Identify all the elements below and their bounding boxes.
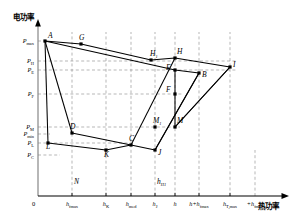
x-axis-arrow [282, 193, 290, 199]
label-F: F [165, 85, 171, 94]
y-tick-Pmin-sub: min [27, 134, 35, 139]
y-tick-PM-sub: M [30, 127, 34, 132]
axes [35, 19, 289, 199]
lower-upper-link-line [72, 133, 131, 145]
x-tick-h_plus_hfmax: h+hfmax [189, 200, 209, 209]
upper-boundary-line [45, 41, 230, 67]
label-H1-sub: 1 [155, 54, 157, 59]
y-tick-PL: PL [27, 139, 35, 148]
x-tick-labels: 0hfmaxhKhmedhJhh+hfmaxhT,max+hfmax [32, 193, 264, 210]
marker-F [173, 92, 176, 95]
marker-M1 [153, 125, 156, 128]
x-tick-hTmax: hT,max [223, 200, 238, 210]
chp-feasible-region-chart: AGH1HEBIFM1MDCLKJNhH1 0hfmaxhKhmedhJhh+h… [0, 0, 308, 224]
y-tick-PC-sub: C [31, 155, 34, 160]
x-tick-h_med: hmed [126, 200, 137, 209]
y-tick-PF: PF [27, 90, 35, 99]
label-N: N [73, 177, 80, 186]
marker-H1 [149, 58, 152, 61]
x-tick-h_plus_hfmax-sub: fmax [200, 204, 210, 209]
edge-A-D [45, 41, 72, 133]
x-tick-h_K: hK [103, 200, 110, 209]
x-tick-h_J: hJ [153, 200, 158, 209]
y-tick-Pmax-sub: max [26, 41, 34, 46]
x-tick-h_K-sub: K [106, 204, 110, 209]
y-tick-PH-sub: H [31, 61, 35, 66]
y-tick-PE-sub: E [31, 70, 34, 75]
figure-canvas: AGH1HEBIFM1MDCLKJNhH1 0hfmaxhKhmedhJhh+h… [0, 0, 308, 224]
marker-D [70, 131, 73, 134]
label-K: K [103, 150, 110, 159]
label-D: D [69, 122, 76, 131]
y-tick-Pmax: Pmax [22, 37, 35, 46]
marker-E [173, 68, 176, 71]
vertex-labels: AGH1HEBIFM1MDCLKJNhH1 [45, 31, 236, 187]
label-B: B [202, 70, 207, 79]
marker-H [173, 56, 176, 59]
label-A: A [47, 31, 53, 40]
y-tick-PC: PC [26, 151, 34, 160]
lower-boundary-line [48, 143, 155, 150]
y-tick-PF-sub: F [32, 94, 35, 99]
x-tick-origin: 0 [32, 200, 35, 207]
label-H1: H1 [149, 49, 158, 59]
marker-B [197, 71, 200, 74]
x-tick-h_med-sub: med [129, 204, 137, 209]
y-tick-labels: PmaxPHPEPFPMPminPLPC [22, 37, 35, 160]
label-J: J [158, 148, 162, 157]
x-tick-h_fmax-sub: fmax [69, 204, 79, 209]
label-I: I [232, 60, 236, 69]
x-tick-h: h [173, 200, 176, 207]
y-tick-PH: PH [26, 57, 35, 66]
marker-M [173, 125, 176, 128]
y-axis-arrow [35, 19, 41, 27]
marker-J [153, 148, 156, 151]
marker-C [129, 143, 132, 146]
y-tick-PL-sub: L [31, 143, 34, 148]
x-tick-h_J-sub: J [156, 204, 158, 209]
label-hH1: hH1 [157, 177, 166, 187]
label-M1: M1 [152, 116, 161, 126]
marker-I [228, 65, 231, 68]
x-axis-title: 热功率 [258, 201, 280, 211]
label-E: E [165, 63, 171, 72]
marker-A [43, 39, 46, 42]
label-G: G [79, 33, 85, 42]
label-hH1-sub: H1 [160, 182, 166, 187]
x-tick-h_fmax: hfmax [66, 200, 79, 209]
label-M: M [176, 116, 184, 125]
edge-A-L [45, 41, 48, 143]
y-axis-title: 电功率 [13, 12, 35, 22]
y-tick-PE: PE [27, 66, 35, 75]
label-M1-sub: 1 [159, 121, 161, 126]
x-tick-hTmax-sub: T,max [226, 204, 238, 210]
marker-G [79, 42, 82, 45]
label-H: H [176, 47, 183, 56]
label-L: L [45, 142, 50, 151]
